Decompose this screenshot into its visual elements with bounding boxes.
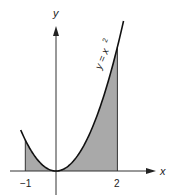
x-axis-arrow-icon (146, 168, 156, 174)
x-tick-label-2: 2 (114, 178, 120, 189)
y-axis-label: y (52, 7, 60, 19)
y-axis-arrow-icon (53, 26, 59, 36)
x-axis-label: x (159, 165, 166, 177)
x-tick-label-neg1: −1 (20, 178, 32, 189)
parabola-diagram: y x −1 2 y = x 2 (0, 0, 176, 195)
curve-equation-text: y = x (92, 46, 111, 72)
curve-equation-label: y = x 2 (90, 37, 114, 72)
curve-equation-exponent: 2 (101, 37, 109, 43)
